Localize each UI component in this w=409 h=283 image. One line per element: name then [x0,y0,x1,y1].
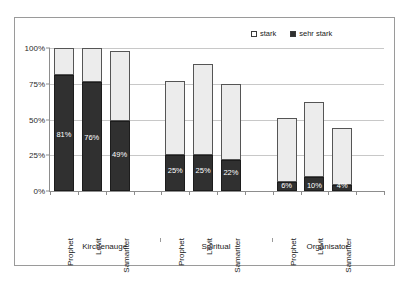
xtick-mark [384,191,385,195]
legend-label-stark: stark [260,30,276,38]
bar-value-label: 76% [82,133,102,142]
group-separator [160,238,161,242]
bar-value-label: 49% [110,150,130,159]
stacked-bar[interactable]: 25% [193,64,213,191]
bar-segment-stark[interactable] [277,118,297,182]
legend-entry-stark: stark [251,30,276,38]
stacked-bar[interactable]: 49% [110,51,130,191]
group-separator [272,238,273,242]
stacked-bar[interactable]: 6% [277,118,297,191]
bar-segment-stark[interactable] [54,48,74,75]
stacked-bar[interactable]: 4% [332,128,352,191]
bar-value-label: 81% [54,130,74,139]
plot-area: 100% 75% 50% 25% 0% 81%76%49%25%25%22%6%… [49,48,384,192]
category-labels: ProphetLevitSamariterProphetLevitSamarit… [49,194,383,240]
bar-segment-stark[interactable] [332,128,352,185]
chart-legend: stark sehr stark [251,28,332,40]
bar-value-label: 6% [277,181,297,190]
bar-value-label: 4% [332,181,352,190]
bar-slot: 25% [193,48,213,191]
bar-segment-stark[interactable] [110,51,130,121]
bar-slot: 49% [110,48,130,191]
bar-value-label: 25% [193,166,213,175]
stacked-bar[interactable]: 22% [221,84,241,191]
bar-segment-stark[interactable] [82,48,102,82]
chart-figure: stark sehr stark 100% 75% 50% 25% 0% 81%… [14,17,395,266]
bar-value-label: 25% [165,166,185,175]
legend-swatch-stark-icon [251,31,257,37]
ytick-label-25: 25% [29,151,45,160]
bar-segment-stark[interactable] [304,102,324,176]
legend-label-sehr-stark: sehr stark [299,30,332,38]
bar-slot: 81% [54,48,74,191]
bar-segment-stark[interactable] [193,64,213,156]
ytick-label-100: 100% [25,44,45,53]
bar-slot: 4% [332,48,352,191]
ytick-label-75: 75% [29,79,45,88]
legend-swatch-sehr-stark-icon [290,31,296,37]
ytick-label-50: 50% [29,115,45,124]
bar-segment-stark[interactable] [221,84,241,160]
bars-layer: 81%76%49%25%25%22%6%10%4% [50,48,384,191]
stacked-bar[interactable]: 10% [304,102,324,191]
stacked-bar[interactable]: 76% [82,48,102,191]
bar-slot: 22% [221,48,241,191]
group-label: Organisator [272,242,383,252]
bar-value-label: 22% [221,168,241,177]
bar-slot: 6% [277,48,297,191]
group-label: Kirchenauge [49,242,160,252]
bar-slot: 76% [82,48,102,191]
ytick-label-0: 0% [33,187,45,196]
group-labels: KirchenaugeSpiritualOrganisator [49,242,383,256]
stacked-bar[interactable]: 81% [54,48,74,191]
bar-segment-stark[interactable] [165,81,185,155]
legend-entry-sehr-stark: sehr stark [290,30,332,38]
stacked-bar[interactable]: 25% [165,81,185,191]
bar-slot: 25% [165,48,185,191]
bar-slot: 10% [304,48,324,191]
bar-value-label: 10% [304,181,324,190]
group-label: Spiritual [160,242,271,252]
